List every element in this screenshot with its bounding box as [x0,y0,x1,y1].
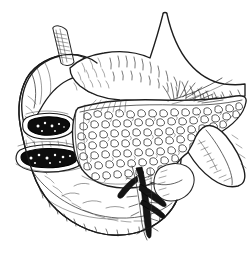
illustration-canvas: Stomach, pancreas and duodenum — pen-and… [0,0,250,253]
anatomical-illustration: Stomach, pancreas and duodenum — pen-and… [0,0,250,253]
